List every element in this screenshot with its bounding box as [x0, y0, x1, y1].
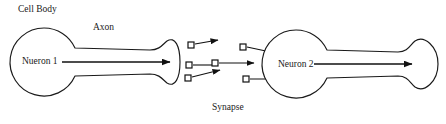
vesicle-group-2 — [186, 62, 213, 68]
vesicle-group-3 — [185, 70, 220, 81]
vesicle-group-1 — [188, 40, 218, 48]
vesicle-arrow — [195, 40, 218, 44]
vesicle-square — [188, 42, 194, 48]
label-axon: Axon — [93, 22, 114, 32]
vesicle-square — [185, 75, 191, 81]
vesicle-arrow — [192, 70, 220, 77]
label-cell-body: Cell Body — [18, 4, 57, 14]
vesicle-square — [240, 44, 246, 50]
label-synapse: Synapse — [212, 102, 244, 112]
vesicle-square — [186, 62, 192, 68]
vesicle-square — [243, 76, 249, 82]
diagram-canvas: Cell Body Axon Nueron 1 Neuron 2 Synapse — [0, 0, 446, 124]
neuron-synapse-diagram: Cell Body Axon Nueron 1 Neuron 2 Synapse — [0, 0, 446, 124]
label-neuron-1: Nueron 1 — [22, 56, 58, 66]
label-neuron-2: Neuron 2 — [278, 59, 314, 69]
vesicle-square — [212, 60, 218, 66]
vesicle-group-4 — [212, 60, 254, 66]
